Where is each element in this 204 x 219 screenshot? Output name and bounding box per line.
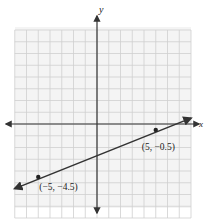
x-axis-label: x <box>198 119 203 129</box>
data-point <box>154 128 158 132</box>
data-point-label: (5, −0.5) <box>142 142 175 153</box>
y-axis-label: y <box>98 4 104 15</box>
data-point-label: (−5, −4.5) <box>39 182 77 193</box>
data-point <box>36 175 40 179</box>
grid-background <box>15 27 191 208</box>
coordinate-plane: (5, −0.5)(−5, −4.5) y x <box>0 0 204 219</box>
